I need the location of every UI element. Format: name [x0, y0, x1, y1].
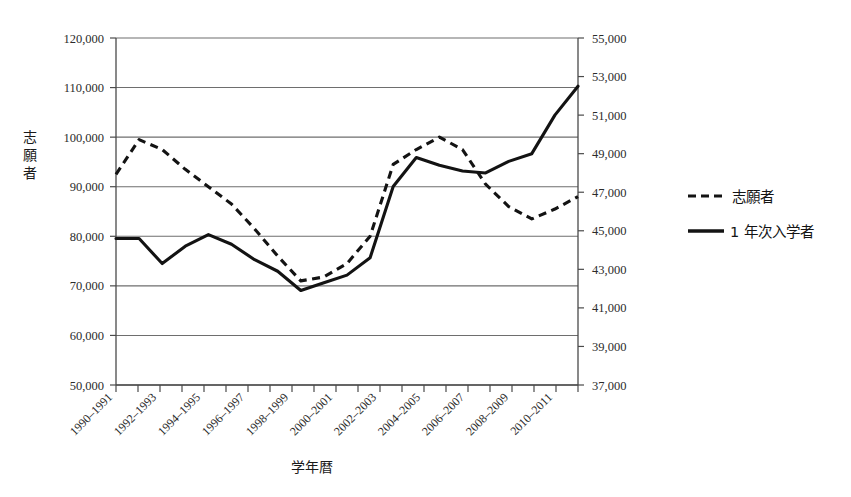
xtick-label: 1994–1995	[155, 390, 203, 438]
chart-figure: 120,000 110,000 100,000 90,000 80,000 70…	[0, 0, 851, 497]
y-axis-title-char: 願	[23, 147, 37, 163]
ytick-label-right: 37,000	[592, 379, 626, 393]
ytick-label: 90,000	[70, 180, 104, 194]
ytick-label-right: 43,000	[592, 263, 626, 277]
xtick-label: 1990–1991	[67, 390, 115, 438]
chart-svg: 120,000 110,000 100,000 90,000 80,000 70…	[0, 0, 851, 497]
ytick-label-right: 47,000	[592, 186, 626, 200]
xtick-label: 2004–2005	[375, 390, 423, 438]
xtick-label: 2008–2009	[463, 390, 511, 438]
ytick-label: 110,000	[64, 81, 104, 95]
plot-area	[116, 38, 578, 385]
ytick-label-right: 41,000	[592, 301, 626, 315]
x-axis-ticks	[116, 385, 578, 392]
x-axis-tick-labels: 1990–1991 1992–1993 1994–1995 1996–1997 …	[67, 390, 555, 438]
xtick-label: 2006–2007	[419, 390, 467, 438]
ytick-label-right: 53,000	[592, 70, 626, 84]
xtick-label: 1998–1999	[243, 390, 291, 438]
legend-label-enrollees: 1 年次入学者	[730, 224, 814, 240]
y-axis-title: 志 願 者	[23, 129, 37, 181]
legend-label-applicants: 志願者	[732, 189, 774, 205]
xtick-label: 1992–1993	[111, 390, 159, 438]
left-axis-ticks	[110, 38, 116, 385]
ytick-label: 80,000	[70, 230, 104, 244]
left-axis-tick-labels: 120,000 110,000 100,000 90,000 80,000 70…	[63, 32, 104, 393]
xtick-label: 2000–2001	[287, 390, 335, 438]
ytick-label-right: 51,000	[592, 109, 626, 123]
right-axis-tick-labels: 55,000 53,000 51,000 49,000 47,000 45,00…	[592, 32, 626, 393]
xtick-label: 1996–1997	[199, 390, 247, 438]
y-axis-title-char: 志	[23, 129, 37, 145]
ytick-label-right: 49,000	[592, 147, 626, 161]
xtick-label: 2002–2003	[331, 390, 379, 438]
ytick-label-right: 39,000	[592, 340, 626, 354]
ytick-label: 70,000	[70, 279, 104, 293]
xtick-label: 2010–2011	[507, 390, 555, 438]
y-axis-title-char: 者	[23, 165, 37, 181]
x-axis-title: 学年暦	[291, 459, 333, 475]
ytick-label: 120,000	[63, 32, 104, 46]
ytick-label: 60,000	[70, 329, 104, 343]
ytick-label: 50,000	[70, 379, 104, 393]
ytick-label-right: 45,000	[592, 224, 626, 238]
ytick-label-right: 55,000	[592, 32, 626, 46]
right-axis-ticks	[578, 38, 584, 385]
legend: 志願者 1 年次入学者	[688, 189, 814, 240]
ytick-label: 100,000	[63, 131, 104, 145]
